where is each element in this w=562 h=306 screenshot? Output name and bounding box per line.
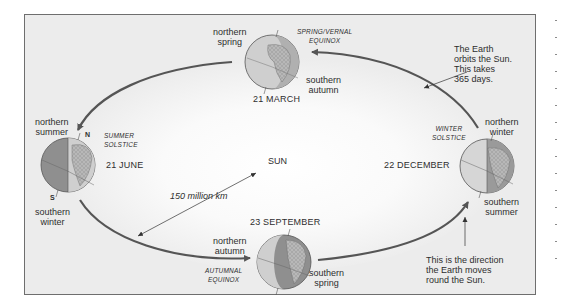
september-date-label: 23 SEPTEMBER (250, 217, 320, 227)
distance-label: 150 million km (170, 191, 228, 201)
distance-arrow (138, 173, 256, 236)
march-date-label: 21 MARCH (253, 94, 300, 104)
globe-september (257, 229, 311, 295)
june-north-label: northern summer (35, 117, 69, 137)
december-north-label: northern winter (485, 117, 519, 137)
orbit-arrow-sep-to-dec (318, 202, 468, 260)
june-date-label: 21 JUNE (106, 160, 143, 170)
september-event-label: AUTUMNAL EQUINOX (205, 266, 242, 284)
orbit-arrow-mar-to-jun (78, 62, 232, 130)
june-pole-s: S (50, 193, 55, 203)
globe-june (41, 133, 95, 197)
december-south-label: southern summer (484, 197, 519, 217)
june-south-label: southern winter (35, 207, 70, 227)
june-pole-n: N (85, 130, 90, 140)
globe-december (460, 134, 514, 198)
globe-march (245, 30, 299, 94)
direction-note: This is the direction the Earth moves ro… (426, 255, 504, 285)
march-south-label: southern autumn (306, 75, 341, 95)
march-event-label: SPRING/VERNAL EQUINOX (297, 27, 352, 45)
september-north-label: northern autumn (213, 236, 247, 256)
december-event-label: WINTER SOLSTICE (432, 124, 466, 142)
september-south-label: southern spring (309, 268, 344, 288)
orbit-duration-note: The Earth orbits the Sun. This takes 365… (454, 44, 512, 84)
march-north-label: northern spring (213, 27, 247, 47)
sun-label: SUN (268, 156, 287, 166)
margin-marks (555, 20, 559, 300)
december-date-label: 22 DECEMBER (384, 160, 450, 170)
june-event-label: SUMMER SOLSTICE (104, 131, 138, 149)
